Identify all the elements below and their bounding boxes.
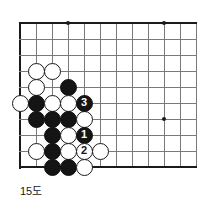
white-stone-d3[interactable] [44, 63, 61, 80]
black-stone-move-3-label: 3 [81, 97, 87, 108]
black-stone-move-1-label: 1 [81, 129, 87, 140]
black-stone-c7[interactable] [44, 127, 61, 144]
black-stone-e4[interactable] [60, 79, 77, 96]
star-point-center-right [162, 117, 166, 121]
white-stone-c4[interactable] [28, 79, 45, 96]
white-stone-d5[interactable] [60, 95, 77, 112]
white-stone-move-2[interactable]: 2 [76, 143, 93, 160]
white-stone-e9[interactable] [76, 159, 93, 176]
black-stone-c8[interactable] [44, 143, 61, 160]
star-point-top-right [162, 21, 166, 25]
star-point-top-left [66, 21, 70, 25]
black-stone-b5[interactable] [28, 95, 45, 112]
go-diagram-figure: 312 15도 [0, 0, 215, 207]
grid-line-vertical-10 [180, 23, 181, 168]
grid-line-vertical-9 [164, 23, 165, 168]
grid-line-vertical-7 [132, 23, 133, 168]
black-stone-c9[interactable] [44, 159, 61, 176]
grid-line-horizontal-1 [19, 39, 197, 40]
black-stone-move-3[interactable]: 3 [76, 95, 93, 112]
go-board[interactable]: 312 [0, 0, 215, 207]
white-stone-f8[interactable] [92, 143, 109, 160]
black-stone-move-1[interactable]: 1 [76, 127, 93, 144]
white-stone-c5[interactable] [44, 95, 61, 112]
white-stone-a5[interactable] [12, 95, 29, 112]
black-stone-d6[interactable] [60, 111, 77, 128]
figure-caption: 15도 [20, 182, 42, 198]
black-stone-b6[interactable] [28, 111, 45, 128]
black-stone-c6[interactable] [44, 111, 61, 128]
white-stone-move-2-label: 2 [81, 145, 87, 156]
white-stone-c3[interactable] [28, 63, 45, 80]
grid-line-horizontal-0 [19, 22, 197, 24]
white-stone-d8[interactable] [60, 143, 77, 160]
grid-line-horizontal-2 [19, 55, 197, 56]
black-stone-d9[interactable] [60, 159, 77, 176]
grid-line-vertical-11 [196, 23, 197, 168]
grid-line-vertical-8 [148, 23, 149, 168]
white-stone-d7[interactable] [60, 127, 77, 144]
white-stone-e6[interactable] [76, 111, 93, 128]
white-stone-b8[interactable] [28, 143, 45, 160]
grid-line-horizontal-4 [19, 87, 197, 88]
grid-line-vertical-6 [116, 23, 117, 168]
